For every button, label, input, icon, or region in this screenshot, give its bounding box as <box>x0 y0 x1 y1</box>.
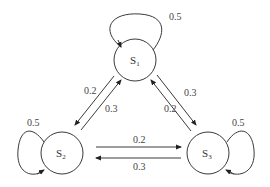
svg-text:0.3: 0.3 <box>105 103 118 114</box>
svg-text:0.5: 0.5 <box>169 11 182 22</box>
self-loop-s3: 0.5 <box>226 117 254 174</box>
edge-s1-s3: 0.3 <box>157 75 197 125</box>
svg-text:0.2: 0.2 <box>164 103 177 114</box>
svg-text:0.5: 0.5 <box>27 117 40 128</box>
edge-s2-s3: 0.2 <box>96 134 181 147</box>
svg-text:S1: S1 <box>130 54 140 68</box>
svg-text:0.3: 0.3 <box>133 161 146 172</box>
svg-text:S3: S3 <box>202 147 212 161</box>
svg-text:0.3: 0.3 <box>184 87 197 98</box>
svg-text:0.2: 0.2 <box>133 134 146 145</box>
svg-text:0.2: 0.2 <box>84 85 97 96</box>
edge-s3-s2: 0.3 <box>96 158 181 172</box>
state-diagram: S1 0.5 S2 0.5 S3 0.5 0.2 0.3 0.2 <box>0 0 270 187</box>
self-loop-s2: 0.5 <box>18 117 44 174</box>
state-s2: S2 <box>41 132 83 174</box>
svg-text:0.5: 0.5 <box>232 117 245 128</box>
svg-text:S2: S2 <box>56 147 66 161</box>
state-s3: S3 <box>187 132 229 174</box>
edge-s1-s2: 0.2 <box>75 76 114 125</box>
